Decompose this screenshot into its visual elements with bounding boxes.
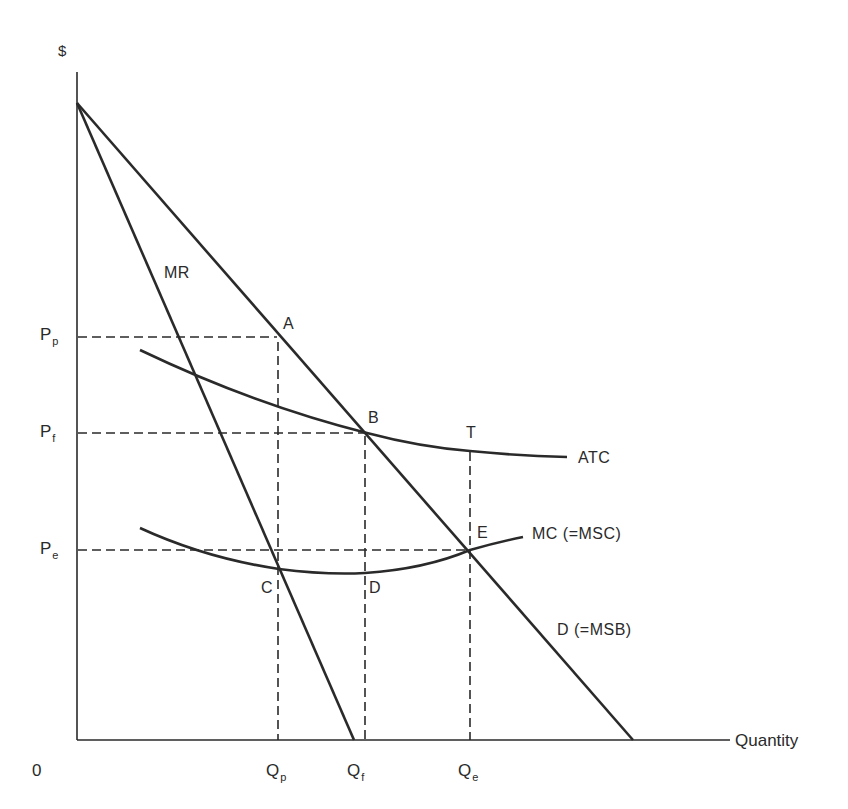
quantity-label-qf: Qf (347, 762, 364, 779)
mr-curve-label: MR (164, 265, 190, 281)
quantity-label-qp: Qp (266, 762, 286, 779)
economics-diagram (0, 0, 848, 809)
point-label-a: A (283, 316, 294, 332)
point-label-b: B (368, 410, 379, 426)
x-axis-label: Quantity (735, 732, 798, 749)
y-axis-label: $ (58, 43, 66, 58)
point-label-t: T (466, 425, 476, 441)
price-label-pp: Pp (40, 326, 58, 343)
quantity-label-qe: Qe (458, 762, 478, 779)
demand-curve (77, 103, 633, 740)
mc-curve-label: MC (=MSC) (532, 526, 621, 542)
price-label-pf: Pf (40, 423, 55, 440)
mr-curve (77, 103, 354, 740)
point-label-c: C (261, 580, 273, 596)
atc-curve-label: ATC (578, 450, 610, 466)
price-label-pe: Pe (40, 540, 58, 557)
demand-curve-label: D (=MSB) (557, 622, 632, 638)
origin-label: 0 (32, 762, 41, 779)
atc-curve (140, 350, 567, 457)
point-label-d: D (369, 580, 381, 596)
point-label-e: E (477, 525, 488, 541)
